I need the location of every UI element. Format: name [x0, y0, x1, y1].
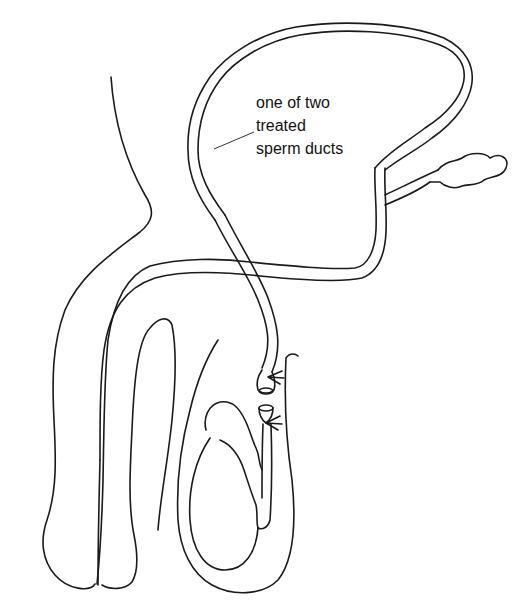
testicle — [190, 438, 258, 570]
penis-outline-right — [97, 259, 250, 584]
label-leader-line — [214, 132, 254, 149]
urethra-upper-wall — [250, 168, 376, 269]
sperm-duct-left-wall — [215, 220, 268, 368]
label-line-2: treated — [256, 114, 343, 137]
penis-glans — [102, 319, 175, 589]
sperm-duct-right-wall — [225, 215, 278, 372]
epididymis — [205, 402, 262, 470]
stitch-upper-icon — [268, 371, 284, 384]
label-line-3: sperm ducts — [256, 137, 343, 160]
lower-duct-right — [258, 424, 272, 529]
duct-lower-cut-opening — [259, 405, 273, 411]
label-line-1: one of two — [256, 91, 343, 114]
sperm-duct-label: one of two treated sperm ducts — [256, 91, 343, 160]
vas-to-vesicle-lower — [385, 182, 430, 205]
body-outline — [43, 77, 151, 589]
seminal-vesicle — [430, 154, 507, 188]
stitch-lower-icon — [266, 416, 282, 430]
lower-duct-left — [262, 424, 263, 498]
epididymis-lower — [220, 440, 258, 528]
vasectomy-diagram: one of two treated sperm ducts — [0, 0, 517, 613]
